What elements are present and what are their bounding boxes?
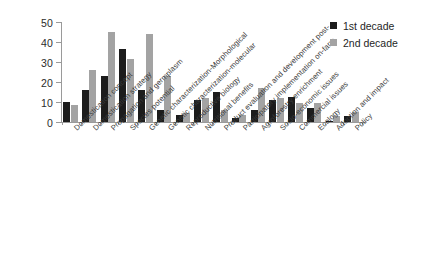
legend-swatch-2nd-decade (330, 39, 337, 46)
y-tick-mark (56, 42, 61, 43)
y-axis-tick-label: 50 (41, 17, 53, 29)
legend-item: 1st decade (330, 17, 398, 34)
y-axis-tick-label: 30 (41, 57, 53, 69)
y-axis-tick: 30 (56, 62, 61, 63)
y-tick-mark (56, 82, 61, 83)
legend-item: 2nd decade (330, 34, 398, 51)
y-axis-tick: 10 (56, 102, 61, 103)
x-axis-tick (62, 122, 63, 125)
y-tick-mark (56, 102, 61, 103)
bar-chart: 01020304050 Domestication conceptDomesti… (0, 0, 440, 266)
y-axis-tick-label: 20 (41, 77, 53, 89)
chart-legend: 1st decade 2nd decade (330, 17, 398, 51)
y-axis-tick: 0 (56, 122, 61, 123)
y-axis-tick-label: 0 (47, 117, 53, 129)
bar-1st-decade (63, 102, 70, 122)
y-tick-mark (56, 62, 61, 63)
y-tick-mark (56, 122, 61, 123)
legend-label-1st-decade: 1st decade (343, 20, 394, 32)
y-axis-tick-label: 10 (41, 97, 53, 109)
y-tick-mark (56, 22, 61, 23)
legend-label-2nd-decade: 2nd decade (343, 37, 398, 49)
y-axis-tick: 40 (56, 42, 61, 43)
y-axis-tick-label: 40 (41, 37, 53, 49)
legend-swatch-1st-decade (330, 22, 337, 29)
bar-group (62, 22, 81, 122)
y-axis-tick: 20 (56, 82, 61, 83)
bar-2nd-decade (71, 105, 78, 122)
y-axis-tick: 50 (56, 22, 61, 23)
